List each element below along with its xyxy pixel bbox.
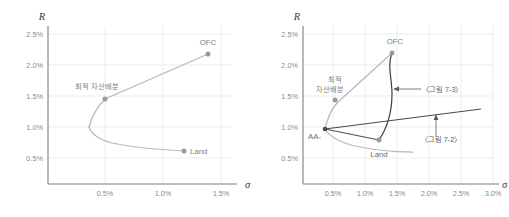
right-chart-panel: R σ 0.5% 1.0% 1.5% 2.0% 2.5% 0.5% 1.0% 1… <box>255 0 509 217</box>
right-marker-ofc <box>390 51 395 56</box>
right-marker-aa <box>323 127 328 132</box>
left-y-axis-label: R <box>38 11 46 22</box>
left-label-ofc: OFC <box>200 38 217 47</box>
right-cal-line <box>325 109 481 129</box>
right-marker-land <box>377 138 382 143</box>
right-grid-vertical <box>333 26 493 183</box>
left-x-tick-0: 0.5% <box>97 189 114 198</box>
left-chart-panel: R σ 0.5% 1.0% 1.5% 2.0% 2.5% 0.5% 1.0% 1… <box>0 0 255 217</box>
right-x-tick-5: 3.0% <box>485 189 502 198</box>
right-anno-72-leader <box>434 114 439 137</box>
right-x-tick-1: 1.0% <box>357 189 374 198</box>
right-chart-svg: R σ 0.5% 1.0% 1.5% 2.0% 2.5% 0.5% 1.0% 1… <box>255 0 509 217</box>
left-x-axis-label: σ <box>245 179 251 190</box>
right-label-aa: AA- <box>308 132 321 141</box>
left-frontier-lower <box>89 127 184 151</box>
left-y-tick-3: 2.0% <box>26 61 43 70</box>
left-y-tick-2: 1.5% <box>26 92 43 101</box>
right-y-tick-3: 2.0% <box>281 61 298 70</box>
left-grid-horizontal <box>48 34 232 158</box>
right-x-axis-label: σ <box>502 179 508 190</box>
right-y-tick-1: 1.0% <box>281 123 298 132</box>
right-grid-horizontal <box>303 34 493 158</box>
left-marker-optimal <box>103 97 108 102</box>
right-x-tick-2: 1.5% <box>389 189 406 198</box>
left-label-land: Land <box>190 147 207 156</box>
right-marker-optimal <box>333 98 338 103</box>
left-chart-svg: R σ 0.5% 1.0% 1.5% 2.0% 2.5% 0.5% 1.0% 1… <box>0 0 255 217</box>
two-panel-figure: R σ 0.5% 1.0% 1.5% 2.0% 2.5% 0.5% 1.0% 1… <box>0 0 509 217</box>
right-x-tick-0: 0.5% <box>325 189 342 198</box>
right-x-tick-3: 2.0% <box>421 189 438 198</box>
left-y-tick-4: 2.5% <box>26 30 43 39</box>
right-label-ofc: OFC <box>387 37 404 46</box>
right-y-tick-2: 1.5% <box>281 92 298 101</box>
right-y-axis-label: R <box>293 11 301 22</box>
right-label-optimal-line2: 자산배분 <box>316 85 344 94</box>
right-y-tick-4: 2.5% <box>281 30 298 39</box>
right-y-tick-0: 0.5% <box>281 154 298 163</box>
right-label-land: Land <box>370 150 387 159</box>
left-y-tick-1: 1.0% <box>26 123 43 132</box>
right-anno-73-label: 〈그림 7-3〉 <box>422 85 462 94</box>
right-frontier-lower <box>325 129 413 152</box>
right-x-tick-4: 2.5% <box>453 189 470 198</box>
left-marker-land <box>182 149 187 154</box>
left-y-tick-0: 0.5% <box>26 154 43 163</box>
left-marker-ofc <box>206 52 211 57</box>
right-anno-73-leader <box>393 87 421 92</box>
left-grid-vertical <box>105 26 221 183</box>
left-x-tick-2: 1.5% <box>213 189 230 198</box>
left-label-optimal: 최적 자산배분 <box>75 82 119 91</box>
right-anno-72-label: 〈그림 7-2〉 <box>421 135 461 144</box>
left-x-tick-1: 1.0% <box>155 189 172 198</box>
right-label-optimal-line1: 최적 <box>328 75 342 84</box>
